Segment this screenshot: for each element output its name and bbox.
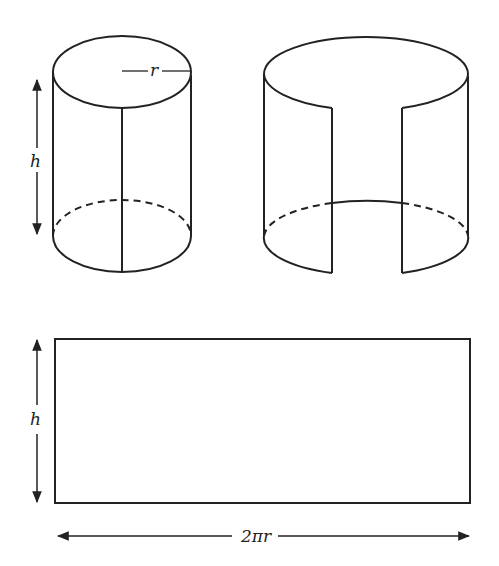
top-front-left-arc bbox=[264, 74, 332, 108]
top-ellipse bbox=[53, 36, 191, 108]
bottom-front-right-arc bbox=[402, 236, 468, 273]
top-back-arc bbox=[264, 37, 468, 74]
top-front-right-arc bbox=[402, 74, 468, 108]
cylinder-surface-diagram: r h h 2πr bbox=[0, 0, 499, 566]
radius-label: r bbox=[150, 60, 159, 80]
bottom-front-left-arc bbox=[264, 236, 332, 273]
bottom-back-right-dashed bbox=[402, 203, 468, 236]
width-label-rectangle: 2πr bbox=[240, 526, 272, 546]
height-label-rectangle: h bbox=[30, 409, 41, 429]
height-label-cylinder: h bbox=[30, 151, 41, 171]
bottom-back-visible-arc bbox=[332, 201, 402, 203]
unrolled-rectangle bbox=[55, 339, 470, 503]
cut-cylinder bbox=[264, 37, 468, 273]
bottom-back-left-dashed bbox=[264, 203, 332, 236]
closed-cylinder bbox=[53, 36, 191, 272]
